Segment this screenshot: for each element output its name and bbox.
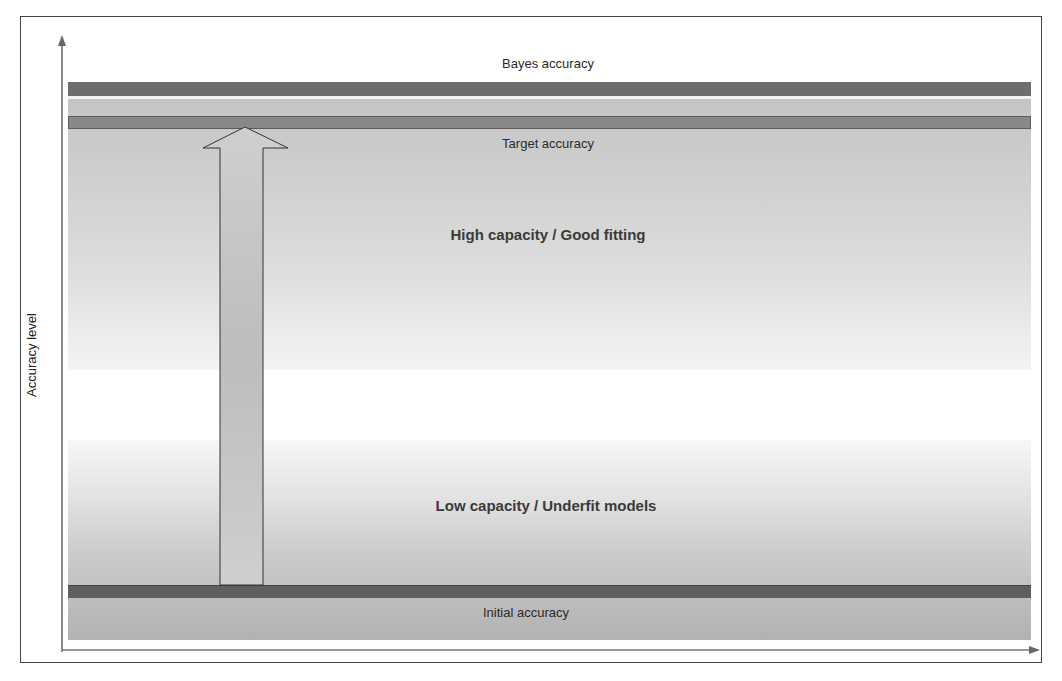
initial-accuracy-label: Initial accuracy — [483, 605, 569, 620]
x-axis-arrow-icon — [1029, 646, 1040, 654]
high-capacity-label: High capacity / Good fitting — [451, 226, 646, 243]
improvement-arrow-icon — [203, 127, 288, 585]
y-axis-arrow-icon — [58, 35, 66, 46]
bayes-accuracy-label: Bayes accuracy — [502, 56, 594, 71]
y-axis-label: Accuracy level — [24, 313, 39, 397]
diagram-graphics — [0, 0, 1062, 681]
low-capacity-label: Low capacity / Underfit models — [436, 497, 657, 514]
target-accuracy-label: Target accuracy — [502, 136, 594, 151]
